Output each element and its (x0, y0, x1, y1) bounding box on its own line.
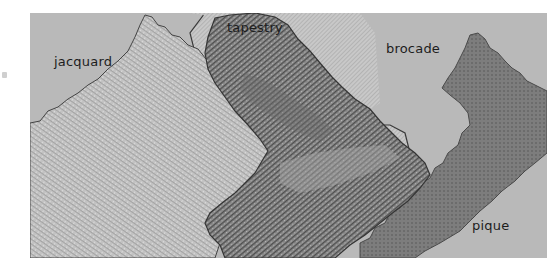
brocade-label: brocade (386, 41, 440, 56)
swatches-illustration (30, 13, 547, 258)
margin-mark (2, 72, 7, 78)
pique-label: pique (472, 218, 509, 233)
tapestry-label: tapestry (227, 20, 283, 35)
jacquard-label: jacquard (54, 54, 112, 69)
fabric-swatches-photo: jacquard tapestry brocade pique (30, 13, 547, 258)
